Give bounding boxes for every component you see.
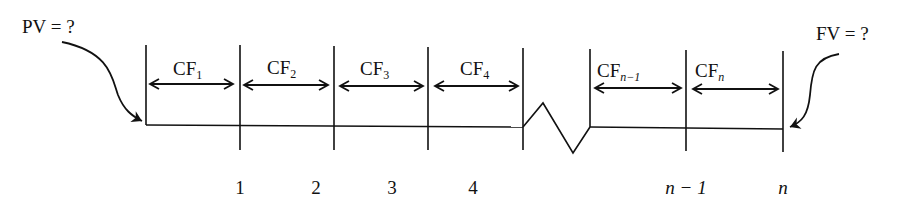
cash-flow-arrows — [150, 84, 778, 89]
cash-flow-label: CFn — [695, 60, 724, 84]
period-label: 1 — [235, 177, 245, 198]
present-value-label: PV = ? — [22, 16, 75, 37]
future-value-label: FV = ? — [816, 23, 869, 44]
period-label: 2 — [311, 177, 321, 198]
timeline-axis — [146, 103, 783, 153]
cash-flow-timeline-diagram: PV = ? FV = ? CF1 CF2 CF3 CF4 CFn−1 CFn — [0, 0, 916, 211]
cash-flow-labels: CF1 CF2 CF3 CF4 CFn−1 CFn — [173, 57, 724, 84]
pv-pointer-arrow-icon — [62, 42, 142, 121]
cash-flow-label: CFn−1 — [597, 60, 640, 84]
period-labels: 1 2 3 4 n − 1 n — [235, 177, 788, 198]
period-label: 4 — [468, 177, 478, 198]
cash-flow-label: CF2 — [267, 57, 296, 81]
cash-flow-label: CF4 — [460, 58, 489, 82]
cash-flow-label: CF1 — [173, 58, 202, 82]
period-label: n − 1 — [665, 177, 706, 198]
cash-flow-label: CF3 — [360, 58, 389, 82]
period-label: 3 — [387, 177, 397, 198]
fv-pointer-arrow-icon — [790, 54, 839, 127]
period-label: n — [778, 177, 788, 198]
timeline-break-zigzag-icon — [523, 103, 590, 153]
